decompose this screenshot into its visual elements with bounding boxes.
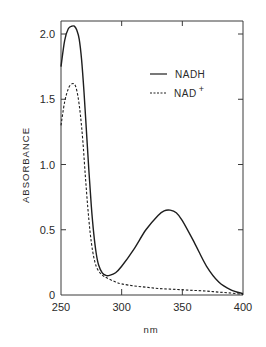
series-line-nad-plus [61,84,243,295]
y-tick-label: 1.0 [40,159,55,171]
legend-label-nad-plus: NAD+ [174,84,204,99]
legend: NADH NAD+ [150,69,205,99]
series-line-nadh [61,26,243,294]
legend-label-nadh: NADH [175,69,205,80]
legend-label-superscript: + [199,84,205,94]
series-group [61,26,243,295]
x-tick-label: 300 [112,301,130,313]
y-tick-label: 1.5 [40,93,55,105]
y-tick-label: 2.0 [40,28,55,40]
absorbance-chart: 250300350400 00.51.01.52.0 nm ABSORBANCE… [0,0,266,347]
x-tick-label: 400 [234,301,252,313]
x-axis-label: nm [143,324,158,335]
y-tick-label: 0.5 [40,224,55,236]
y-axis-label: ABSORBANCE [20,127,31,203]
y-axis: 00.51.01.52.0 [40,28,243,301]
legend-label-nad-text: NAD [174,88,197,99]
x-tick-label: 350 [173,301,191,313]
y-tick-label: 0 [49,289,55,301]
x-tick-label: 250 [52,301,70,313]
